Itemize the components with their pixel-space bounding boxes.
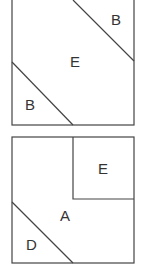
region-label-top-right: B: [111, 11, 121, 28]
region-label-bottom-left: D: [26, 236, 37, 253]
region-label-center: E: [70, 53, 80, 70]
region-label-bottom-left: B: [25, 96, 35, 113]
region-label-top-right: E: [98, 160, 108, 177]
region-label-center: A: [60, 207, 70, 224]
bottom-left-diagonal: [12, 62, 73, 125]
diagram-canvas: B E B E A D: [0, 0, 146, 266]
top-right-diagonal: [73, 0, 134, 61]
top-square: B E B: [12, 0, 134, 125]
bottom-square: E A D: [12, 137, 134, 263]
